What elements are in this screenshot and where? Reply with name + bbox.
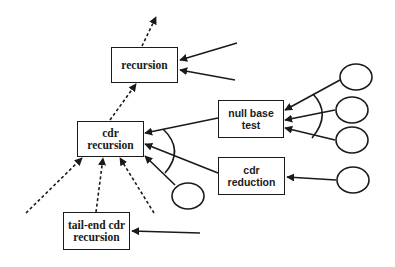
- node-cdr-recursion: cdr recursion: [77, 121, 144, 157]
- node-tail-end-line1: tail-end cdr: [68, 219, 125, 231]
- ellipse-node-2: [336, 97, 368, 123]
- edge-ellipse-2-to-null-base-test: [285, 110, 335, 120]
- ellipse-node-3: [336, 127, 368, 153]
- ellipse-node-low: [172, 183, 204, 209]
- node-tail-end-cdr-recursion: tail-end cdr recursion: [63, 212, 130, 250]
- edge-external-3-to-tail-end: [132, 231, 200, 233]
- edge-lower-left-to-cdr-recursion: [26, 158, 82, 213]
- node-tail-end-line2: recursion: [73, 231, 119, 243]
- node-null-base-test-line1: null base: [228, 107, 274, 119]
- ellipse-node-4: [337, 167, 369, 193]
- edge-ellipse-1-to-null-base-test: [285, 80, 340, 110]
- node-cdr-reduction-line2: reduction: [228, 176, 276, 188]
- edge-external-1-to-recursion: [180, 43, 237, 60]
- node-cdr-recursion-line1: cdr: [102, 127, 119, 139]
- node-recursion: recursion: [111, 47, 178, 83]
- node-cdr-recursion-line2: recursion: [87, 139, 133, 151]
- node-null-base-test: null base test: [218, 100, 284, 138]
- edge-null-base-test-to-cdr-recursion: [145, 118, 218, 133]
- diagram-canvas: [0, 0, 395, 267]
- edge-ellipse-3-to-null-base-test: [285, 128, 335, 140]
- edge-ellipse-low-to-cdr-recursion: [145, 156, 175, 185]
- edge-lower-right-to-cdr-recursion: [120, 158, 154, 213]
- ellipse-node-1: [340, 64, 372, 90]
- edge-cdr-reduction-to-cdr-recursion: [145, 144, 218, 173]
- node-cdr-reduction: cdr reduction: [218, 157, 285, 195]
- and-arc-null-base-test: [312, 94, 322, 138]
- node-cdr-reduction-line1: cdr: [243, 164, 259, 176]
- node-recursion-label: recursion: [121, 59, 167, 71]
- node-null-base-test-line2: test: [242, 119, 261, 131]
- edge-recursion-to-parent: [142, 17, 156, 46]
- edge-external-2-to-recursion: [180, 70, 235, 80]
- edge-cdr-recursion-to-recursion: [110, 84, 136, 120]
- edge-ellipse-4-to-cdr-reduction: [287, 177, 336, 180]
- edge-tail-end-to-cdr-recursion: [96, 158, 103, 212]
